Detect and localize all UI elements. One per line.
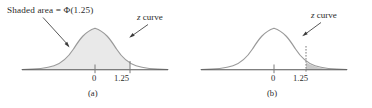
panel-caption-a: (a)	[88, 89, 98, 98]
z-curve-annotation-a: z curve	[137, 13, 163, 22]
tick-label-1.25-a: 1.25	[114, 74, 129, 83]
z-curve-annotation-a-text: curve	[141, 12, 163, 22]
tick-label-0-a: 0	[92, 74, 96, 83]
panel-b: z curve 0 1.25 (b)	[186, 0, 372, 108]
panel-caption-b: (b)	[267, 89, 277, 98]
panel-b-plot	[186, 0, 372, 108]
shaded-area-left-of-1.25	[27, 28, 131, 69]
tick-label-0-b: 0	[271, 74, 275, 83]
normal-density-curve	[201, 28, 347, 69]
z-curve-leader-arrow-a	[129, 25, 148, 38]
normal-curve-figure: Shaded area = Φ(1.25) z curve 0 1.25 (a)	[0, 0, 372, 108]
z-curve-leader-arrow-b	[302, 23, 321, 37]
panel-a: Shaded area = Φ(1.25) z curve 0 1.25 (a)	[0, 0, 186, 108]
z-curve-annotation-b: z curve	[311, 11, 337, 20]
tick-label-1.25-b: 1.25	[293, 74, 308, 83]
z-curve-annotation-b-text: curve	[315, 10, 337, 20]
shaded-area-annotation-text: Shaded area = Φ(1.25)	[7, 5, 93, 15]
shaded-area-annotation: Shaded area = Φ(1.25)	[7, 6, 93, 15]
shaded-area-leader-arrow	[43, 18, 70, 48]
